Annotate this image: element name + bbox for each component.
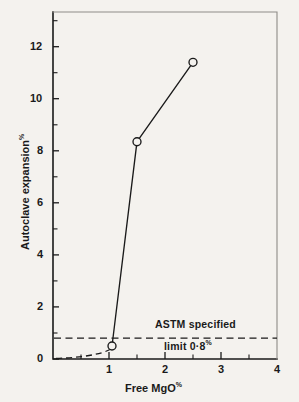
y-tick-label-8: 8 bbox=[37, 144, 43, 156]
astm-limit-value: limit 0·8 bbox=[164, 340, 205, 352]
y-axis-major-ticks bbox=[53, 47, 59, 359]
data-point-marker bbox=[108, 342, 116, 350]
y-tick-label-6: 6 bbox=[37, 196, 43, 208]
series-main-line bbox=[112, 62, 193, 346]
astm-annotation-line-1: ASTM specified bbox=[155, 318, 236, 330]
x-tick-label-3: 3 bbox=[218, 363, 224, 375]
data-point-marker bbox=[133, 138, 141, 146]
series-main-markers bbox=[108, 58, 197, 350]
x-tick-label-2: 2 bbox=[162, 363, 168, 375]
y-tick-label-2: 2 bbox=[37, 300, 43, 312]
y-tick-label-10: 10 bbox=[30, 92, 42, 104]
y-tick-label-12: 12 bbox=[30, 40, 42, 52]
astm-annotation-line-2: limit 0·8% bbox=[164, 339, 212, 352]
y-tick-label-0: 0 bbox=[37, 352, 43, 364]
axis-frame bbox=[53, 12, 277, 359]
plot-area bbox=[0, 0, 299, 402]
y-axis-title-unit: % bbox=[18, 134, 25, 140]
x-axis-title-unit: % bbox=[176, 381, 182, 388]
x-axis-title: Free MgO% bbox=[125, 381, 182, 394]
y-axis-title: Autoclave expansion% bbox=[18, 134, 31, 250]
x-axis-major-ticks bbox=[109, 352, 221, 359]
x-tick-label-4: 4 bbox=[274, 363, 280, 375]
x-axis-title-text: Free MgO bbox=[125, 382, 176, 394]
figure-canvas: 12 10 8 6 4 2 0 1 2 3 4 Free MgO% Autocl… bbox=[0, 0, 299, 402]
y-tick-label-4: 4 bbox=[37, 248, 43, 260]
series-dashed-trend bbox=[56, 346, 115, 359]
x-tick-label-1: 1 bbox=[106, 363, 112, 375]
astm-limit-unit: % bbox=[205, 339, 211, 346]
data-point-marker bbox=[189, 58, 197, 66]
y-axis-title-text: Autoclave expansion bbox=[19, 140, 31, 250]
